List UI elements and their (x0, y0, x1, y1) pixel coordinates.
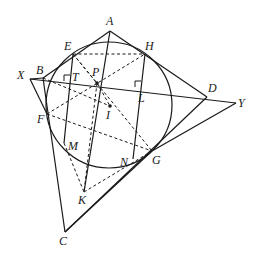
point-label-C: C (59, 234, 68, 248)
point-label-A: A (105, 14, 114, 28)
point-label-P: P (91, 65, 100, 79)
point-dot-P (95, 81, 99, 85)
segment-KG (84, 151, 152, 192)
point-label-K: K (77, 193, 87, 207)
point-label-B: B (36, 63, 44, 77)
segment-CG (65, 151, 152, 232)
segment-XB (30, 78, 43, 79)
point-label-E: E (63, 39, 72, 53)
point-label-T: T (72, 70, 80, 84)
segment-XY (30, 79, 236, 103)
segment-GY (152, 103, 236, 151)
point-label-N: N (119, 155, 129, 169)
segment-HN (133, 54, 145, 159)
right-angle-mark-T (64, 75, 70, 81)
point-label-X: X (16, 68, 25, 82)
geometry-diagram: ABCDEFGHIKLMNPTXY (0, 0, 254, 258)
diagram-shapes (30, 31, 236, 232)
point-label-G: G (152, 153, 161, 167)
segment-AD (110, 31, 207, 97)
point-label-F: F (36, 112, 45, 126)
point-label-H: H (144, 39, 155, 53)
point-label-M: M (67, 139, 79, 153)
point-label-D: D (207, 81, 217, 95)
segment-BC (43, 78, 65, 232)
point-label-I: I (105, 108, 111, 122)
point-label-Y: Y (238, 96, 246, 110)
right-angle-mark-L (135, 81, 141, 87)
point-label-L: L (137, 91, 145, 105)
